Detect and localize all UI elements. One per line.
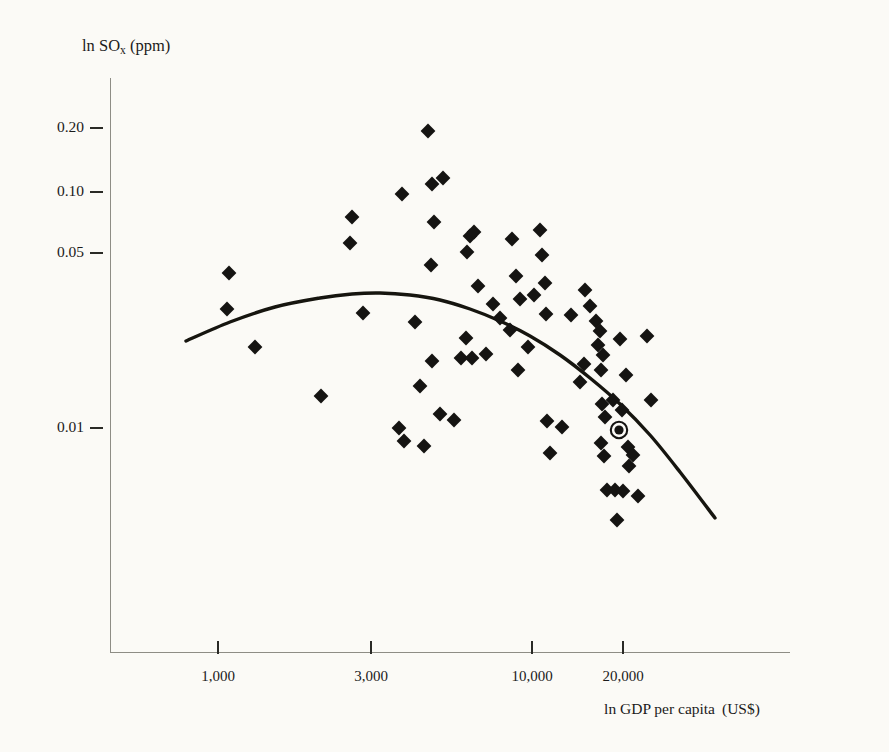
scatter-point[interactable] xyxy=(640,329,655,344)
scatter-point[interactable] xyxy=(505,232,520,247)
scatter-point[interactable] xyxy=(564,308,579,323)
scatter-point[interactable] xyxy=(413,379,428,394)
scatter-point[interactable] xyxy=(345,210,360,225)
scatter-point[interactable] xyxy=(613,332,628,347)
scatter-point[interactable] xyxy=(539,307,554,322)
scatter-point[interactable] xyxy=(583,299,598,314)
scatter-point[interactable] xyxy=(425,354,440,369)
scatter-point[interactable] xyxy=(619,368,634,383)
scatter-point[interactable] xyxy=(417,439,432,454)
scatter-point[interactable] xyxy=(644,393,659,408)
scatter-point[interactable] xyxy=(433,407,448,422)
scatter-point[interactable] xyxy=(615,403,630,418)
scatter-point[interactable] xyxy=(573,375,588,390)
scatter-point[interactable] xyxy=(248,340,263,355)
scatter-point[interactable] xyxy=(356,306,371,321)
scatter-point[interactable] xyxy=(555,420,570,435)
fit-curve-path xyxy=(186,293,715,518)
scatter-point[interactable] xyxy=(511,363,526,378)
scatter-point[interactable] xyxy=(594,363,609,378)
scatter-point[interactable] xyxy=(479,347,494,362)
scatter-point[interactable] xyxy=(610,513,625,528)
scatter-point[interactable] xyxy=(521,340,536,355)
scatter-point[interactable] xyxy=(527,288,542,303)
scatter-point[interactable] xyxy=(395,187,410,202)
scatter-point[interactable] xyxy=(533,223,548,238)
scatter-point[interactable] xyxy=(408,315,423,330)
scatter-point[interactable] xyxy=(460,245,475,260)
scatter-point[interactable] xyxy=(631,489,646,504)
scatter-point[interactable] xyxy=(392,421,407,436)
scatter-point[interactable] xyxy=(578,283,593,298)
scatter-point[interactable] xyxy=(509,269,524,284)
scatter-point[interactable] xyxy=(424,258,439,273)
scatter-point[interactable] xyxy=(598,410,613,425)
scatter-point[interactable] xyxy=(421,124,436,139)
scatter-point[interactable] xyxy=(447,413,462,428)
scatter-markers-layer xyxy=(220,124,659,528)
scatter-point[interactable] xyxy=(314,389,329,404)
scatter-point[interactable] xyxy=(459,331,474,346)
scatter-point[interactable] xyxy=(543,446,558,461)
highlight-core xyxy=(614,425,623,434)
scatter-point[interactable] xyxy=(486,297,501,312)
scatter-point[interactable] xyxy=(535,248,550,263)
scatter-point[interactable] xyxy=(465,351,480,366)
scatter-point[interactable] xyxy=(538,276,553,291)
scatter-point[interactable] xyxy=(222,266,237,281)
chart-figure: ln SOx (ppm) ln GDP per capita(US$) 0.20… xyxy=(0,0,889,752)
scatter-point-highlighted[interactable] xyxy=(611,422,627,438)
scatter-point[interactable] xyxy=(343,236,358,251)
scatter-point[interactable] xyxy=(471,279,486,294)
scatter-point[interactable] xyxy=(594,436,609,451)
scatter-point[interactable] xyxy=(597,449,612,464)
plot-area xyxy=(0,0,889,752)
scatter-point[interactable] xyxy=(397,434,412,449)
scatter-point[interactable] xyxy=(513,292,528,307)
scatter-point[interactable] xyxy=(540,414,555,429)
scatter-point[interactable] xyxy=(427,215,442,230)
scatter-point[interactable] xyxy=(220,302,235,317)
